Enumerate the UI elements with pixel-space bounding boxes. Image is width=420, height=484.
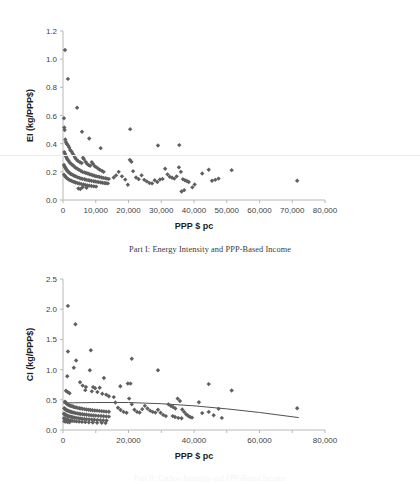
x-tick-label: 60,000 [247,206,272,215]
x-tick-label: 80,000 [313,436,338,445]
x-tick-label: 0 [61,436,66,445]
data-point [229,168,233,172]
data-point [200,171,204,175]
y-tick-label: 1.2 [46,27,58,36]
chart-carbon-intensity: 0.00.51.01.52.02.5020,00040,00060,00080,… [0,258,420,470]
data-point [95,390,99,394]
y-tick-label: 1.0 [46,55,58,64]
data-point [143,404,147,408]
data-point [87,136,91,140]
data-point [118,384,122,388]
data-point [207,410,211,414]
data-point [87,420,91,424]
data-point [200,411,204,415]
y-tick-label: 2.0 [46,305,58,314]
data-point [73,322,77,326]
data-point [130,357,134,361]
data-point [89,348,93,352]
data-point [179,170,183,174]
data-point [65,374,69,378]
energy-intensity-plot: 0.00.20.40.60.81.01.2010,00020,00030,000… [0,0,420,240]
data-point [207,382,211,386]
data-point [295,179,299,183]
data-point [107,410,111,414]
x-tick-label: 40,000 [182,436,207,445]
data-point [207,168,211,172]
y-tick-label: 0.5 [46,396,58,405]
y-tick-label: 0.8 [46,83,58,92]
x-tick-label: 10,000 [84,206,109,215]
data-point [127,396,131,400]
data-point [98,146,102,150]
data-point [220,416,224,420]
data-point [179,416,183,420]
data-point [78,380,82,384]
data-point [97,386,101,390]
data-point [177,143,181,147]
data-point [156,368,160,372]
data-point [211,413,215,417]
data-point [75,106,79,110]
x-tick-label: 50,000 [215,206,240,215]
caption-part-two: Part II: Carbon Intensity and PPP-Based … [0,474,420,483]
data-point [90,389,94,393]
x-tick-label: 20,000 [116,436,141,445]
data-point [229,388,233,392]
x-tick-label: 20,000 [116,206,141,215]
x-tick-label: 80,000 [313,206,338,215]
y-tick-label: 0.4 [46,140,58,149]
data-point [140,407,144,411]
data-point [128,381,132,385]
data-point [197,400,201,404]
y-tick-label: 1.5 [46,335,58,344]
data-point [80,129,84,133]
x-tick-label: 40,000 [182,206,207,215]
data-point [66,77,70,81]
data-point [123,177,127,181]
data-point [72,366,76,370]
y-tick-label: 1.0 [46,366,58,375]
x-tick-label: 30,000 [149,206,174,215]
data-point [139,173,143,177]
data-point [150,181,154,185]
data-point [100,392,104,396]
caption-part-one: Part I: Energy Intensity and PPP-Based I… [0,245,420,254]
y-tick-label: 0.6 [46,112,58,121]
data-point [112,395,116,399]
data-point [210,179,214,183]
data-point [116,170,120,174]
data-point [95,420,99,424]
data-point [216,407,220,411]
data-point [156,408,160,412]
data-point [113,400,117,404]
x-axis-title: PPP $ pc [175,221,213,231]
y-axis-title: EI (kg/PPP$) [25,89,35,142]
data-point [163,167,167,171]
y-tick-label: 0.0 [46,196,58,205]
data-point [126,183,130,187]
x-axis-title: PPP $ pc [175,451,213,461]
data-point [156,143,160,147]
data-point [120,174,124,178]
data-point [128,127,132,131]
data-point [66,304,70,308]
data-point [102,376,106,380]
carbon-intensity-plot: 0.00.51.01.52.02.5020,00040,00060,00080,… [0,258,420,470]
data-point [177,165,181,169]
x-tick-label: 60,000 [247,436,272,445]
data-point [66,349,70,353]
data-point [131,169,135,173]
data-point [74,358,78,362]
data-point [107,414,111,418]
x-tick-label: 70,000 [280,206,305,215]
figure-page: 0.00.20.40.60.81.01.2010,00020,00030,000… [0,0,420,484]
data-point [295,406,299,410]
y-tick-label: 0.2 [46,168,58,177]
chart-energy-intensity: 0.00.20.40.60.81.01.2010,00020,00030,000… [0,0,420,240]
data-point [83,388,87,392]
x-tick-label: 0 [61,206,66,215]
y-tick-label: 0.0 [46,426,58,435]
y-axis-title: CI (kg/PPP$) [25,328,35,382]
data-point [88,368,92,372]
data-point [62,116,66,120]
